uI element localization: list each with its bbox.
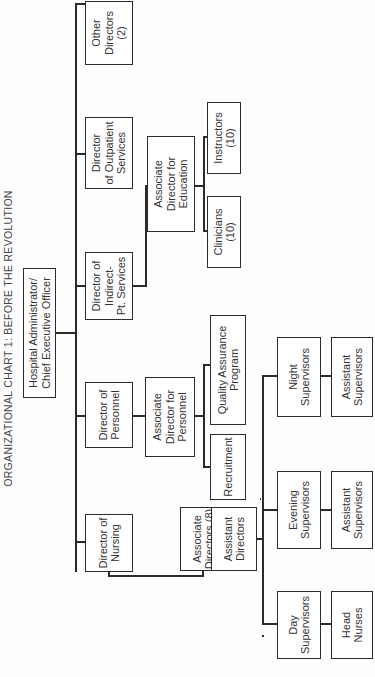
director-indirect-pt-services-box: Director of Indirect- Pt. Services [85, 252, 133, 320]
ceo-box: Hospital Administrator/ Chief Executive … [23, 268, 56, 398]
connector [260, 498, 261, 500]
associate-director-education-box: Associate Director for Education [147, 136, 195, 232]
connector [75, 541, 85, 543]
org-chart: ORGANIZATIONAL CHART 1: BEFORE THE REVOL… [0, 0, 375, 677]
supervisor-label: Night Supervisors [287, 348, 312, 406]
connector [203, 366, 205, 468]
chart-title: ORGANIZATIONAL CHART 1: BEFORE THE REVOL… [2, 0, 14, 677]
head-nurses-box: Head Nurses [331, 591, 373, 659]
quality-assurance-program-box: Quality Assurance Program [210, 315, 246, 425]
connector [133, 285, 145, 287]
connector [262, 377, 264, 625]
connector [203, 364, 210, 366]
evening-supervisors-box: Evening Supervisors [277, 471, 321, 549]
child-label: Recruitment [222, 437, 235, 496]
connector [56, 332, 75, 334]
connector [203, 138, 205, 232]
director-outpatient-box: Director of Outpatient Services [85, 117, 133, 189]
connector [262, 635, 264, 637]
connector [195, 185, 203, 187]
connector [202, 571, 204, 577]
sub-label: Assistant Supervisors [340, 348, 365, 406]
other-directors-box: Other Directors (2) [85, 1, 133, 65]
connector [75, 3, 85, 5]
supervisor-label: Evening Supervisors [287, 481, 312, 539]
director-label: Other Directors (2) [90, 11, 128, 55]
child-label: Quality Assurance Program [216, 326, 241, 415]
connector [75, 153, 85, 155]
connector [75, 4, 77, 572]
connector [262, 375, 277, 377]
director-label: Director of Personnel [97, 390, 122, 441]
day-supervisors-box: Day Supervisors [277, 591, 321, 659]
assistant-label: Assistant Directors [222, 517, 247, 562]
sub-label: Assistant Supervisors [340, 481, 365, 539]
connector [75, 285, 85, 287]
child-label: Instructors (10) [212, 112, 237, 163]
recruitment-box: Recruitment [210, 434, 246, 500]
connector [108, 571, 110, 577]
director-personnel-box: Director of Personnel [85, 382, 133, 448]
connector [321, 509, 331, 511]
night-assistant-supervisors-box: Assistant Supervisors [331, 337, 373, 417]
director-nursing-box: Director of Nursing [85, 514, 133, 572]
night-supervisors-box: Night Supervisors [277, 337, 321, 417]
director-label: Director of Outpatient Services [90, 122, 128, 185]
director-label: Director of Nursing [97, 518, 122, 569]
connector [262, 509, 277, 511]
connector [321, 375, 331, 377]
connector [203, 466, 210, 468]
connector [108, 575, 202, 577]
connector [262, 623, 277, 625]
evening-assistant-supervisors-box: Assistant Supervisors [331, 471, 373, 549]
supervisor-label: Day Supervisors [287, 596, 312, 654]
connector [321, 623, 331, 625]
associate-label: Associate Director for Personnel [151, 390, 189, 444]
instructors-box: Instructors (10) [207, 102, 241, 174]
child-label: Clinicians (10) [212, 208, 237, 255]
connector [195, 415, 203, 417]
director-label: Director of Indirect- Pt. Services [90, 257, 128, 316]
associate-director-personnel-box: Associate Director for Personnel [145, 377, 195, 457]
clinicians-box: Clinicians (10) [207, 196, 241, 268]
connector [75, 415, 85, 417]
sub-label: Head Nurses [340, 608, 365, 643]
ceo-label: Hospital Administrator/ Chief Executive … [27, 277, 52, 389]
assistant-directors-box: Assistant Directors [211, 507, 257, 571]
associate-label: Associate Director for Education [152, 157, 190, 211]
